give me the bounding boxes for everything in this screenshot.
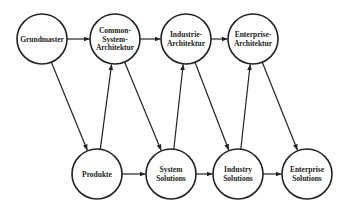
node-label: Solutions: [292, 174, 322, 183]
arrow-industry-solutions-to-enterprise-architektur: [241, 64, 250, 149]
node-label: Architektur: [234, 39, 273, 48]
node-system-solutions: SystemSolutions: [146, 149, 196, 199]
node-grundmaster: Grundmaster: [17, 14, 67, 64]
node-produkte: Produkte: [72, 149, 122, 199]
arrow-common-system-architektur-to-system-solutions: [125, 62, 162, 150]
node-industry-solutions: IndustrySolutions: [213, 149, 263, 199]
arrow-grundmaster-to-produkte: [51, 62, 87, 150]
node-enterprise-architektur: Enterprise-Architektur: [228, 14, 278, 64]
node-label: Produkte: [82, 170, 113, 179]
node-enterprise-solutions: EnterpriseSolutions: [282, 149, 332, 199]
nodes-layer: GrundmasterCommon-System-ArchitekturIndu…: [17, 14, 332, 199]
node-industrie-architektur: Industrie-Architektur: [161, 14, 211, 64]
architecture-diagram: GrundmasterCommon-System-ArchitekturIndu…: [0, 0, 351, 212]
node-label: Architektur: [96, 43, 135, 52]
arrow-system-solutions-to-industrie-architektur: [174, 64, 183, 149]
node-common-system-architektur: Common-System-Architektur: [90, 14, 140, 64]
node-label: Solutions: [156, 174, 186, 183]
node-label: Grundmaster: [20, 35, 64, 44]
node-label: Architektur: [167, 39, 206, 48]
arrow-enterprise-architektur-to-enterprise-solutions: [262, 62, 297, 150]
node-label: Solutions: [223, 174, 253, 183]
arrow-industrie-architektur-to-industry-solutions: [195, 62, 229, 150]
arrow-produkte-to-common-system-architektur: [100, 64, 111, 149]
